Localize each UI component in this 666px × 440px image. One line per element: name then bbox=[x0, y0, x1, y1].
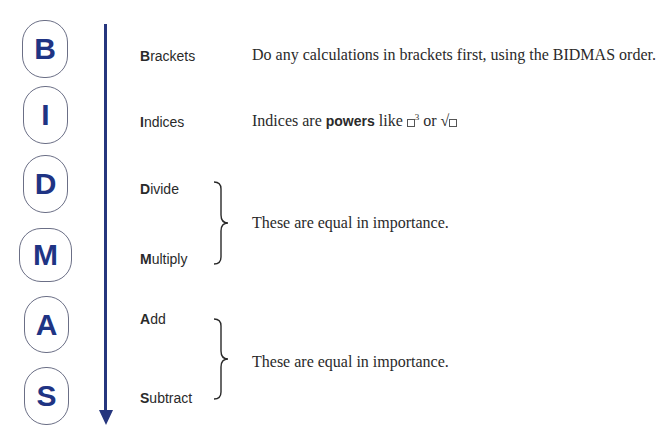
badge-d: D bbox=[23, 155, 68, 213]
term-rest: ultiply bbox=[152, 251, 188, 267]
desc-divide-multiply: These are equal in importance. bbox=[252, 214, 449, 232]
desc-indices-bold: powers bbox=[326, 113, 375, 129]
badge-s: S bbox=[24, 367, 69, 425]
placeholder-square-icon bbox=[407, 119, 415, 127]
desc-indices-or: or bbox=[419, 112, 440, 129]
badge-b: B bbox=[22, 20, 68, 78]
desc-add-subtract: These are equal in importance. bbox=[252, 353, 449, 371]
term-rest: ivide bbox=[150, 181, 179, 197]
term-initial: M bbox=[140, 251, 152, 267]
right-brace-icon bbox=[212, 318, 232, 400]
desc-indices-prefix: Indices are bbox=[252, 112, 326, 129]
desc-indices: Indices are powers like 3 or √ bbox=[252, 112, 457, 130]
desc-brackets: Do any calculations in brackets first, u… bbox=[252, 46, 656, 64]
badge-letter: A bbox=[36, 308, 58, 342]
term-initial: A bbox=[140, 311, 150, 327]
badge-letter: I bbox=[41, 98, 49, 132]
term-rest: ubtract bbox=[149, 390, 192, 406]
badge-i: I bbox=[23, 86, 68, 144]
square-root-icon: √ bbox=[441, 112, 458, 129]
term-initial: D bbox=[140, 181, 150, 197]
right-brace-icon bbox=[212, 181, 232, 265]
term-rest: rackets bbox=[150, 48, 195, 64]
term-subtract: Subtract bbox=[140, 390, 192, 406]
badge-a: A bbox=[24, 296, 69, 353]
badge-m: M bbox=[19, 228, 72, 282]
badge-letter: B bbox=[34, 32, 56, 66]
arrow-down-icon bbox=[99, 410, 113, 425]
order-arrow-shaft bbox=[104, 24, 107, 416]
badge-letter: D bbox=[35, 167, 57, 201]
term-multiply: Multiply bbox=[140, 251, 187, 267]
badge-letter: S bbox=[36, 379, 56, 413]
term-divide: Divide bbox=[140, 181, 179, 197]
term-add: Add bbox=[140, 311, 166, 327]
term-initial: S bbox=[140, 390, 149, 406]
badge-letter: M bbox=[33, 238, 58, 272]
term-brackets: Brackets bbox=[140, 48, 195, 64]
desc-indices-like: like bbox=[375, 112, 407, 129]
term-rest: dd bbox=[150, 311, 166, 327]
term-rest: ndices bbox=[144, 114, 184, 130]
term-initial: B bbox=[140, 48, 150, 64]
term-indices: Indices bbox=[140, 114, 184, 130]
